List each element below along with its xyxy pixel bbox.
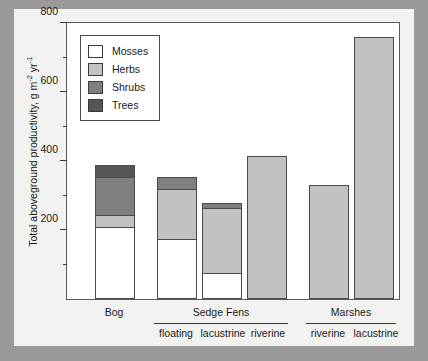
y-tick-label-800: 800 (40, 5, 58, 17)
y-axis-title-exponent-1: -2 (25, 75, 34, 82)
bar-5 (354, 37, 394, 299)
x-sub-label-fen-floating: floating (159, 327, 193, 339)
y-tick-label-400: 400 (40, 143, 58, 155)
bar-segment-herbs (157, 189, 197, 239)
y-tick-minor-500 (63, 126, 67, 127)
plot-area: 200400600800 MossesHerbsShrubsTrees (66, 22, 400, 300)
x-group-label-sedge-fens: Sedge Fens (193, 306, 250, 318)
bar-segment-herbs (95, 215, 135, 227)
legend-item-herbs: Herbs (88, 60, 148, 78)
bar-2 (202, 203, 242, 299)
x-sub-label-marsh-riverine: riverine (311, 327, 345, 339)
bar-4 (309, 185, 349, 299)
bar-segment-trees (95, 165, 135, 177)
bar-segment-mosses (202, 273, 242, 299)
bar-segment-herbs (247, 156, 287, 299)
y-tick-minor-300 (63, 195, 67, 196)
y-tick-major-600 (60, 91, 67, 92)
legend-item-trees: Trees (88, 96, 148, 114)
y-tick-minor-700 (63, 57, 67, 58)
bar-segment-mosses (95, 227, 135, 299)
x-group-label-bog: Bog (105, 306, 124, 318)
x-axis-labels: BogSedge FensMarshesfloatinglacustrineri… (66, 300, 400, 346)
legend-swatch-trees (88, 99, 103, 112)
y-tick-major-400 (60, 160, 67, 161)
bar-0 (95, 165, 135, 300)
legend: MossesHerbsShrubsTrees (80, 35, 160, 121)
bar-segment-herbs (202, 208, 242, 274)
x-sub-label-fen-lacustrine: lacustrine (201, 327, 246, 339)
legend-swatch-herbs (88, 63, 103, 76)
bar-segment-herbs (354, 37, 394, 299)
x-sub-label-fen-riverine: riverine (251, 327, 285, 339)
y-tick-label-200: 200 (40, 212, 58, 224)
bar-segment-shrubs (95, 177, 135, 215)
x-sub-label-marsh-lacustrine: lacustrine (354, 327, 399, 339)
y-axis-title-main: Total aboveground productivity, g m (27, 82, 39, 247)
y-axis-title: Total aboveground productivity, g m-2 yr… (25, 2, 39, 302)
legend-item-shrubs: Shrubs (88, 78, 148, 96)
legend-label-shrubs: Shrubs (112, 81, 145, 93)
bar-1 (157, 177, 197, 299)
y-axis-title-exponent-2: -1 (25, 57, 34, 64)
legend-label-herbs: Herbs (112, 63, 140, 75)
bar-segment-shrubs (157, 177, 197, 189)
y-tick-major-800 (60, 22, 67, 23)
legend-swatch-mosses (88, 45, 103, 58)
y-tick-label-600: 600 (40, 74, 58, 86)
x-group-label-marshes: Marshes (331, 306, 371, 318)
figure: Total aboveground productivity, g m-2 yr… (14, 9, 414, 346)
legend-label-trees: Trees (112, 99, 138, 111)
y-tick-major-200 (60, 229, 67, 230)
bar-segment-herbs (309, 185, 349, 299)
bar-3 (247, 156, 287, 299)
x-group-rule-marshes (306, 323, 396, 324)
y-axis-title-mid: yr (27, 63, 39, 75)
bar-segment-mosses (157, 239, 197, 299)
legend-label-mosses: Mosses (112, 45, 148, 57)
x-group-rule-sedge-fens (154, 323, 288, 324)
legend-item-mosses: Mosses (88, 42, 148, 60)
legend-swatch-shrubs (88, 81, 103, 94)
y-tick-minor-100 (63, 264, 67, 265)
